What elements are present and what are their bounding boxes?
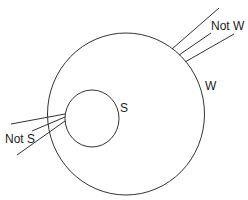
inner-circle-s [65,90,119,147]
not-w-lines [172,8,234,62]
venn-diagram: Not W W S Not S [0,0,248,200]
label-not-s: Not S [5,132,35,146]
label-not-w: Not W [211,19,245,33]
label-w: W [205,79,217,93]
label-s: S [120,101,128,115]
